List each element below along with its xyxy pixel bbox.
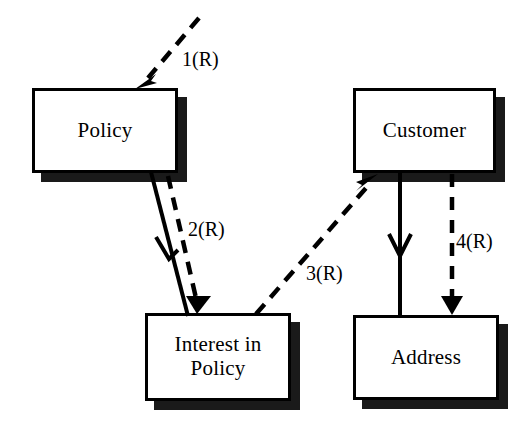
edge-4-arrowhead <box>441 296 463 315</box>
edge-3-arrowhead <box>356 174 378 191</box>
edge-1-label: 1(R) <box>182 48 219 71</box>
edge-3-label: 3(R) <box>306 262 343 285</box>
edge-2-arrowhead <box>186 296 211 314</box>
edge-4-label: 4(R) <box>456 230 493 253</box>
diagram-canvas: Policy Customer Interest in Policy Addre… <box>0 0 523 433</box>
edge-3-line <box>256 188 366 314</box>
edge-2-label: 2(R) <box>188 218 225 241</box>
connector-layer <box>0 0 523 433</box>
edge-1-arrowhead <box>135 74 157 89</box>
edge-2-connector <box>168 176 211 314</box>
edge-3-connector <box>256 174 378 314</box>
edge-4-solid-connector <box>389 172 411 316</box>
